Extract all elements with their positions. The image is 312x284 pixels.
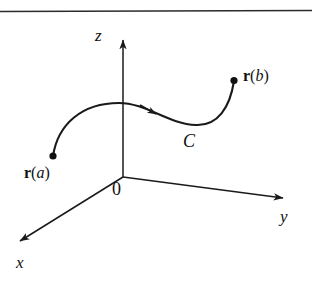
paren-close: ) [263, 67, 268, 84]
figure-container: z y x 0 C r(a) r(b) [0, 0, 312, 284]
figure-canvas [0, 0, 312, 284]
curve-direction-arrow-icon [140, 105, 156, 114]
paren-close: ) [44, 164, 49, 181]
origin-label: 0 [112, 180, 121, 198]
space-curve-C [53, 81, 234, 156]
y-axis-label: y [280, 208, 288, 225]
y-axis-line [123, 177, 283, 198]
curve-label-C: C [183, 132, 195, 150]
point-marker-r-of-a [49, 152, 56, 159]
x-axis-line [20, 177, 123, 241]
x-axis-label: x [16, 254, 24, 271]
z-axis-label: z [95, 27, 102, 44]
point-marker-r-of-b [230, 77, 237, 84]
vector-label-r-of-a: r(a) [24, 165, 50, 181]
vector-label-r-of-b: r(b) [243, 68, 269, 84]
top-rule [0, 11, 312, 12]
